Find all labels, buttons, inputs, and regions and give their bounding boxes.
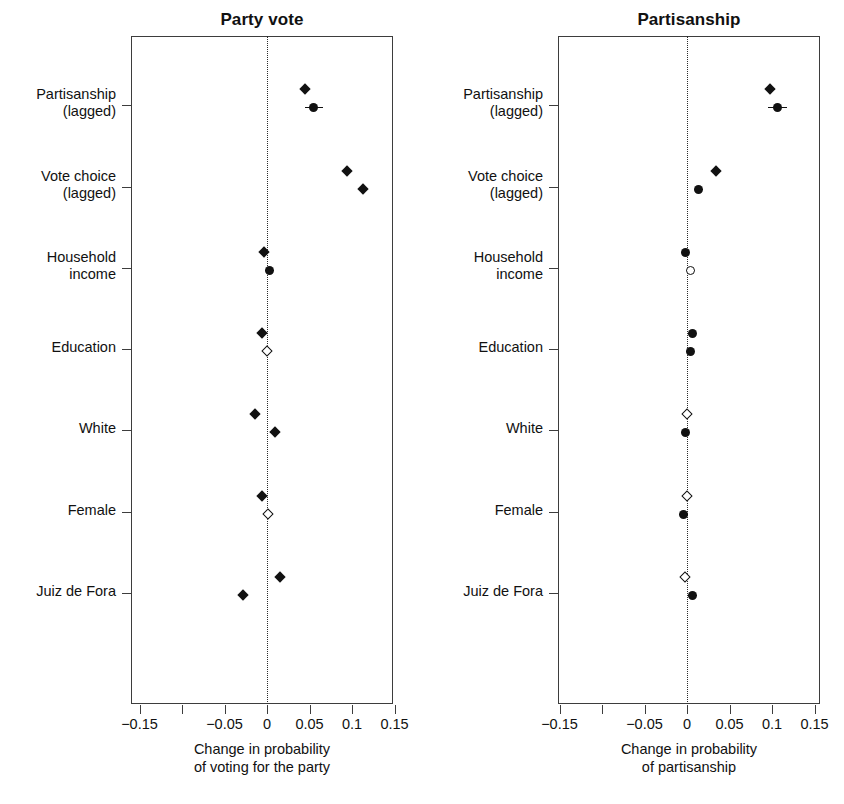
x-axis-title-party-vote: Change in probability of voting for the … bbox=[112, 740, 412, 776]
y-axis-tick bbox=[549, 268, 558, 269]
x-axis-tick-label: −0.15 bbox=[525, 716, 595, 732]
y-axis-category-label: Juiz de Fora bbox=[423, 583, 543, 600]
x-axis-tick-label: 0.15 bbox=[360, 716, 430, 732]
x-axis-tick bbox=[815, 705, 816, 714]
y-axis-category-label-line2: (lagged) bbox=[423, 103, 543, 120]
x-axis-tick bbox=[730, 705, 731, 714]
estimate-marker bbox=[686, 347, 695, 356]
y-axis-tick bbox=[549, 105, 558, 106]
zero-reference-line-left bbox=[267, 36, 268, 704]
y-axis-tick bbox=[122, 430, 131, 431]
panel-partisanship: Partisanship Change in probability of pa… bbox=[422, 0, 844, 804]
estimate-marker bbox=[686, 266, 695, 275]
y-axis-tick bbox=[122, 593, 131, 594]
y-axis-category-label-line1: Education bbox=[423, 339, 543, 356]
plot-area-party-vote bbox=[131, 36, 393, 704]
x-axis-tick bbox=[140, 705, 141, 714]
x-axis-tick-label: 0.15 bbox=[780, 716, 844, 732]
y-axis-tick bbox=[122, 105, 131, 106]
y-axis-category-label: Juiz de Fora bbox=[0, 583, 116, 600]
y-axis-category-label: Education bbox=[423, 339, 543, 356]
panel-party-vote: Party vote Change in probability of voti… bbox=[0, 0, 422, 804]
y-axis-category-label: Vote choice(lagged) bbox=[423, 168, 543, 202]
x-axis-tick bbox=[687, 705, 688, 714]
y-axis-category-label-line1: White bbox=[423, 420, 543, 437]
estimate-marker bbox=[681, 428, 690, 437]
y-axis-category-label-line2: (lagged) bbox=[0, 103, 116, 120]
y-axis-category-label: Householdincome bbox=[423, 249, 543, 283]
y-axis-tick bbox=[122, 268, 131, 269]
x-axis-tick bbox=[645, 705, 646, 714]
estimate-marker bbox=[681, 248, 690, 257]
y-axis-category-label-line1: Vote choice bbox=[423, 168, 543, 185]
y-axis-tick bbox=[549, 187, 558, 188]
zero-reference-line-right bbox=[687, 36, 688, 704]
y-axis-category-label: White bbox=[423, 420, 543, 437]
y-axis-tick bbox=[549, 512, 558, 513]
y-axis-category-label-line1: White bbox=[0, 420, 116, 437]
y-axis-category-label: White bbox=[0, 420, 116, 437]
estimate-marker bbox=[679, 510, 688, 519]
y-axis-tick bbox=[122, 187, 131, 188]
y-axis-category-label-line2: income bbox=[0, 266, 116, 283]
x-axis-tick bbox=[560, 705, 561, 714]
x-axis-title-line1: Change in probability bbox=[112, 740, 412, 758]
y-axis-category-label-line1: Household bbox=[423, 249, 543, 266]
y-axis-tick bbox=[549, 593, 558, 594]
y-axis-category-label: Education bbox=[0, 339, 116, 356]
x-axis-title-line2: of partisanship bbox=[539, 758, 839, 776]
x-axis-tick bbox=[225, 705, 226, 714]
y-axis-tick bbox=[549, 430, 558, 431]
coefficient-plot-figure: Party vote Change in probability of voti… bbox=[0, 0, 844, 804]
y-axis-category-label: Partisanship(lagged) bbox=[0, 86, 116, 120]
estimate-marker bbox=[773, 103, 782, 112]
x-axis-tick bbox=[182, 705, 183, 714]
estimate-marker bbox=[688, 591, 697, 600]
panel-title-partisanship: Partisanship bbox=[558, 10, 820, 30]
x-axis-tick bbox=[310, 705, 311, 714]
y-axis-category-label-line2: (lagged) bbox=[423, 185, 543, 202]
y-axis-category-label-line1: Juiz de Fora bbox=[423, 583, 543, 600]
y-axis-tick bbox=[549, 349, 558, 350]
estimate-marker bbox=[688, 329, 697, 338]
x-axis-title-partisanship: Change in probability of partisanship bbox=[539, 740, 839, 776]
x-axis-tick bbox=[602, 705, 603, 714]
estimate-marker bbox=[309, 103, 318, 112]
y-axis-category-label: Householdincome bbox=[0, 249, 116, 283]
x-axis-title-line1: Change in probability bbox=[539, 740, 839, 758]
y-axis-category-label: Female bbox=[0, 502, 116, 519]
y-axis-category-label-line2: income bbox=[423, 266, 543, 283]
y-axis-category-label: Vote choice(lagged) bbox=[0, 168, 116, 202]
y-axis-category-label-line1: Vote choice bbox=[0, 168, 116, 185]
x-axis-tick-label: −0.15 bbox=[105, 716, 175, 732]
y-axis-category-label: Female bbox=[423, 502, 543, 519]
panel-title-party-vote: Party vote bbox=[131, 10, 393, 30]
y-axis-category-label-line1: Partisanship bbox=[423, 86, 543, 103]
y-axis-tick bbox=[122, 512, 131, 513]
y-axis-category-label-line2: (lagged) bbox=[0, 185, 116, 202]
x-axis-tick bbox=[395, 705, 396, 714]
y-axis-tick bbox=[122, 349, 131, 350]
estimate-marker bbox=[694, 185, 703, 194]
y-axis-category-label: Partisanship(lagged) bbox=[423, 86, 543, 120]
y-axis-category-label-line1: Household bbox=[0, 249, 116, 266]
x-axis-tick bbox=[352, 705, 353, 714]
y-axis-category-label-line1: Partisanship bbox=[0, 86, 116, 103]
y-axis-category-label-line1: Juiz de Fora bbox=[0, 583, 116, 600]
x-axis-tick bbox=[267, 705, 268, 714]
x-axis-title-line2: of voting for the party bbox=[112, 758, 412, 776]
plot-area-partisanship bbox=[558, 36, 820, 704]
x-axis-tick bbox=[772, 705, 773, 714]
estimate-marker bbox=[265, 266, 274, 275]
y-axis-category-label-line1: Female bbox=[0, 502, 116, 519]
y-axis-category-label-line1: Female bbox=[423, 502, 543, 519]
y-axis-category-label-line1: Education bbox=[0, 339, 116, 356]
